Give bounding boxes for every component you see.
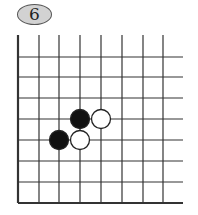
black-stone <box>71 110 90 129</box>
white-stone <box>71 131 90 150</box>
white-stone <box>92 110 111 129</box>
black-stone <box>50 131 69 150</box>
go-board <box>0 0 198 215</box>
